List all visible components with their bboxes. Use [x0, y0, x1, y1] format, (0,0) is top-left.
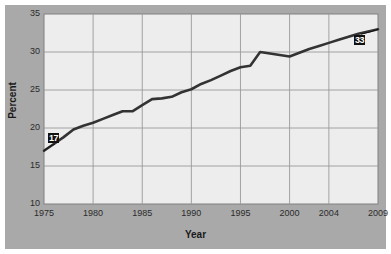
x-axis-title: Year [0, 229, 391, 240]
x-tick-label: 1980 [76, 208, 110, 218]
chart-figure: 101520253035 197519801985199019952000200… [0, 0, 391, 254]
y-tick-label: 10 [18, 198, 40, 208]
y-axis-title: Percent [7, 69, 18, 133]
y-tick-label: 30 [18, 46, 40, 56]
x-tick-label: 1975 [27, 208, 61, 218]
end-value-label: 33 [354, 35, 365, 45]
y-tick-label: 20 [18, 122, 40, 132]
y-tick-label: 15 [18, 160, 40, 170]
x-tick-label: 2000 [273, 208, 307, 218]
start-value-label: 17 [48, 133, 59, 143]
x-tick-label: 1995 [223, 208, 257, 218]
x-tick-label: 2004 [312, 208, 346, 218]
y-tick-label: 35 [18, 8, 40, 18]
x-tick-label: 1990 [174, 208, 208, 218]
x-tick-label: 2009 [361, 208, 391, 218]
y-tick-label: 25 [18, 84, 40, 94]
x-tick-label: 1985 [125, 208, 159, 218]
